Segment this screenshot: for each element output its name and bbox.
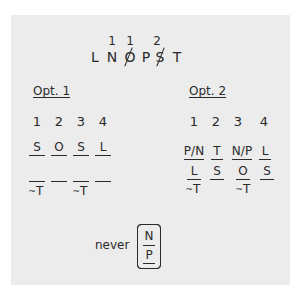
seq-number-n: 1 — [106, 34, 118, 48]
opt2-row1-slot: P/N — [182, 144, 206, 160]
seq-letter-p: P — [139, 49, 153, 65]
seq-letter-s-struck: S — [156, 49, 165, 65]
opt2-position-4: 4 — [256, 114, 272, 129]
opt1-heading: Opt. 1 — [33, 84, 70, 98]
not-symbol: ~ — [186, 184, 194, 194]
opt1-not-t-note-1: ~T — [24, 185, 48, 198]
seq-number-s: 2 — [151, 34, 163, 48]
never-divider — [143, 245, 155, 246]
never-underline — [143, 263, 155, 264]
never-label: never — [95, 238, 129, 252]
opt2-row2-slot: O — [236, 164, 250, 180]
opt2-row2-slot: S — [260, 164, 274, 180]
opt1-row1-slot: O — [51, 140, 67, 156]
seq-letter-o-struck: O — [124, 49, 135, 65]
opt1-not-t-note-3: ~T — [68, 185, 92, 198]
seq-letter-n: N — [105, 49, 119, 65]
opt2-not-t-note-1: ~T — [181, 183, 205, 196]
opt1-row1-slot: S — [29, 140, 45, 156]
opt2-position-1: 1 — [186, 114, 202, 129]
opt2-row2-slot: L — [187, 164, 201, 180]
opt2-position-3: 3 — [230, 114, 246, 129]
opt2-row1-slot: N/P — [230, 144, 254, 160]
not-symbol: ~ — [29, 186, 37, 196]
opt2-row2-slot: S — [210, 164, 224, 180]
never-pair-box: N P — [137, 224, 161, 269]
never-top-letter: N — [138, 229, 160, 243]
opt1-position-2: 2 — [51, 114, 67, 129]
opt2-row1-slot: L — [258, 144, 272, 160]
not-symbol: ~ — [73, 186, 81, 196]
opt1-row2-slot — [95, 181, 111, 184]
opt1-position-4: 4 — [95, 114, 111, 129]
seq-number-o: 1 — [124, 34, 136, 48]
seq-letter-l: L — [88, 49, 102, 65]
opt2-row1-slot: T — [210, 144, 224, 160]
never-bottom-letter: P — [138, 248, 160, 262]
opt1-position-3: 3 — [73, 114, 89, 129]
opt2-position-2: 2 — [208, 114, 224, 129]
opt1-position-1: 1 — [29, 114, 45, 129]
opt2-not-t-note-3: ~T — [231, 183, 255, 196]
not-symbol: ~ — [236, 184, 244, 194]
opt2-heading: Opt. 2 — [189, 84, 226, 98]
opt1-row2-slot — [51, 181, 67, 184]
opt1-row1-slot: L — [95, 140, 111, 156]
opt1-row1-slot: S — [73, 140, 89, 156]
seq-letter-t: T — [170, 49, 184, 65]
